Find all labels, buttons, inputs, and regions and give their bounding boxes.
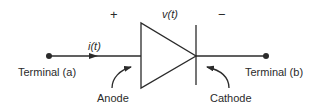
terminal-b-dot <box>263 53 269 59</box>
cathode-label: Cathode <box>210 92 252 104</box>
anode-pointer-arrow-icon <box>112 67 131 88</box>
terminal-b-label: Terminal (b) <box>245 66 303 78</box>
current-label: i(t) <box>88 40 101 52</box>
diode-triangle <box>141 23 196 88</box>
plus-sign: + <box>110 7 118 22</box>
diode-diagram: + v(t) − i(t) Terminal (a) Terminal (b) … <box>0 0 319 109</box>
current-arrow-icon <box>89 53 98 59</box>
cathode-pointer-arrow-icon <box>207 67 229 88</box>
terminal-a-dot <box>46 53 52 59</box>
anode-label: Anode <box>97 92 129 104</box>
terminal-a-label: Terminal (a) <box>18 66 76 78</box>
voltage-label: v(t) <box>162 8 178 20</box>
minus-sign: − <box>218 7 226 22</box>
